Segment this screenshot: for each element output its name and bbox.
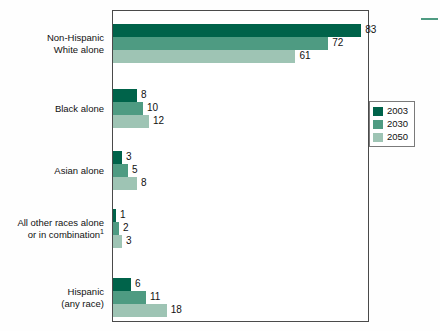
bar-value-label: 8	[141, 176, 147, 189]
bar-2003-4[interactable]	[113, 278, 131, 291]
bar-2050-1[interactable]	[113, 115, 149, 128]
bar-value-label: 3	[126, 234, 132, 247]
bar-2003-1[interactable]	[113, 89, 137, 102]
bar-row: 83	[113, 24, 369, 37]
legend-label: 2003	[387, 106, 408, 116]
legend-swatch-icon	[373, 107, 383, 116]
bar-2003-0[interactable]	[113, 24, 361, 37]
bar-row: 10	[113, 102, 369, 115]
category-axis-labels: Non-HispanicWhite aloneBlack aloneAsian …	[0, 10, 108, 322]
bar-row: 8	[113, 177, 369, 190]
bar-row: 2	[113, 222, 369, 235]
bar-value-label: 12	[153, 114, 164, 127]
bar-row: 3	[113, 151, 369, 164]
chart-legend: 200320302050	[369, 101, 415, 147]
bar-2050-2[interactable]	[113, 177, 137, 190]
legend-item-2030[interactable]: 2030	[373, 118, 411, 130]
bar-2050-4[interactable]	[113, 304, 167, 317]
bar-value-label: 18	[171, 303, 182, 316]
bar-value-label: 72	[332, 36, 343, 49]
bar-2030-0[interactable]	[113, 37, 328, 50]
bars-layer: 8372618101235812361118	[113, 10, 369, 322]
bar-row: 5	[113, 164, 369, 177]
bar-value-label: 2	[123, 221, 129, 234]
bar-value-label: 6	[135, 277, 141, 290]
bar-2003-3[interactable]	[113, 209, 116, 222]
bar-2030-1[interactable]	[113, 102, 143, 115]
chart-page: Non-HispanicWhite aloneBlack aloneAsian …	[0, 0, 440, 331]
category-label-2: Asian alone	[0, 165, 104, 177]
bar-value-label: 11	[150, 290, 160, 303]
bar-value-label: 8	[141, 88, 147, 101]
bar-value-label: 5	[132, 163, 138, 176]
bar-row: 3	[113, 235, 369, 248]
bar-2050-3[interactable]	[113, 235, 122, 248]
bar-2030-3[interactable]	[113, 222, 119, 235]
footnote-marker: 1	[100, 227, 104, 234]
legend-item-2050[interactable]: 2050	[373, 131, 411, 143]
bar-value-label: 1	[120, 208, 126, 221]
bar-value-label: 61	[299, 49, 310, 62]
bar-2030-4[interactable]	[113, 291, 146, 304]
bar-row: 1	[113, 209, 369, 222]
bar-row: 11	[113, 291, 369, 304]
category-label-3: All other races aloneor in combination1	[0, 217, 104, 240]
category-label-0: Non-HispanicWhite alone	[0, 32, 104, 55]
bar-row: 61	[113, 50, 369, 63]
legend-swatch-icon	[373, 133, 383, 142]
bar-2030-2[interactable]	[113, 164, 128, 177]
legend-label: 2050	[387, 132, 408, 142]
bar-row: 72	[113, 37, 369, 50]
edge-tick-mark	[421, 18, 438, 20]
bar-value-label: 83	[365, 23, 376, 36]
bar-row: 12	[113, 115, 369, 128]
legend-item-2003[interactable]: 2003	[373, 105, 411, 117]
bar-value-label: 10	[147, 101, 158, 114]
bar-value-label: 3	[126, 150, 132, 163]
category-label-4: Hispanic(any race)	[0, 286, 104, 309]
bar-2050-0[interactable]	[113, 50, 295, 63]
bar-2003-2[interactable]	[113, 151, 122, 164]
category-label-1: Black alone	[0, 103, 104, 115]
legend-swatch-icon	[373, 120, 383, 129]
legend-label: 2030	[387, 119, 408, 129]
bar-row: 18	[113, 304, 369, 317]
